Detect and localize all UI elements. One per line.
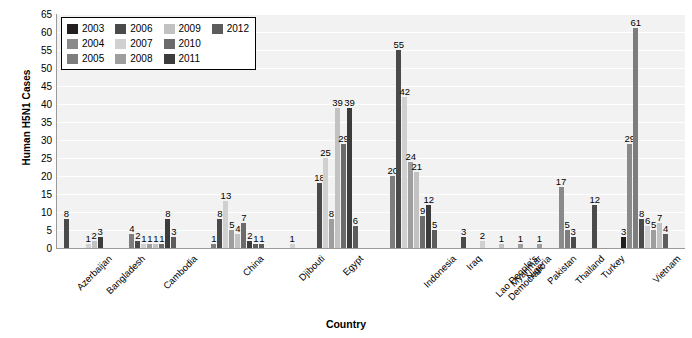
bar[interactable]: 1 <box>253 244 258 248</box>
bar-value-label: 1 <box>86 234 91 244</box>
bar[interactable]: 3 <box>621 237 626 248</box>
bar[interactable]: 20 <box>390 176 395 248</box>
bar[interactable]: 4 <box>235 234 240 248</box>
bar[interactable]: 9 <box>420 216 425 248</box>
legend-label: 2011 <box>179 53 201 64</box>
legend-label: 2012 <box>227 23 249 34</box>
bar[interactable]: 5 <box>565 230 570 248</box>
bar[interactable]: 8 <box>64 219 69 248</box>
legend-item[interactable]: 2009 <box>164 22 201 35</box>
bar[interactable]: 2 <box>135 241 140 248</box>
bar[interactable]: 8 <box>165 219 170 248</box>
bar-group: 1 <box>511 14 530 248</box>
bar[interactable]: 12 <box>592 205 597 248</box>
bar-value-label: 7 <box>241 213 246 223</box>
bar[interactable]: 3 <box>461 237 466 248</box>
x-axis-label: China <box>240 253 265 278</box>
bar[interactable]: 3 <box>98 237 103 248</box>
bar[interactable]: 1 <box>211 244 216 248</box>
y-axis-tick-label: 60 <box>41 27 52 38</box>
legend-item[interactable]: 2010 <box>164 37 201 50</box>
bar[interactable]: 1 <box>499 244 504 248</box>
bar[interactable]: 4 <box>129 234 134 248</box>
bar[interactable]: 1 <box>86 244 91 248</box>
legend-swatch-icon <box>115 39 126 49</box>
bar-value-label: 21 <box>411 162 422 172</box>
bar-group: 3296186574 <box>604 14 685 248</box>
bar-value-label: 1 <box>253 234 258 244</box>
x-axis-title: Country <box>0 318 692 330</box>
bar[interactable]: 8 <box>329 219 334 248</box>
legend-item[interactable]: 2004 <box>67 37 104 50</box>
bar[interactable]: 5 <box>432 230 437 248</box>
bar[interactable]: 2 <box>92 241 97 248</box>
bar-value-label: 3 <box>461 227 466 237</box>
legend-label: 2004 <box>82 38 104 49</box>
legend-item[interactable]: 2007 <box>115 37 152 50</box>
bar-value-label: 1 <box>518 234 523 244</box>
bar-value-label: 1 <box>289 234 294 244</box>
bar[interactable]: 8 <box>217 219 222 248</box>
legend-item[interactable]: 2005 <box>67 52 104 65</box>
bar[interactable]: 7 <box>657 223 662 248</box>
y-axis-tick-label: 30 <box>41 135 52 146</box>
bar[interactable]: 8 <box>639 219 644 248</box>
bar[interactable]: 1 <box>259 244 264 248</box>
bar[interactable]: 5 <box>651 230 656 248</box>
bar[interactable]: 1 <box>153 244 158 248</box>
legend-item[interactable]: 2011 <box>164 52 201 65</box>
bar[interactable]: 1 <box>537 244 542 248</box>
bar-group: 1 <box>492 14 511 248</box>
legend-item[interactable]: 2006 <box>115 22 152 35</box>
bar[interactable]: 18 <box>317 183 322 248</box>
bar-value-label: 8 <box>329 209 334 219</box>
bar[interactable]: 21 <box>414 172 419 248</box>
bar[interactable]: 1 <box>159 244 164 248</box>
bar[interactable]: 2 <box>247 241 252 248</box>
bar[interactable]: 6 <box>645 226 650 248</box>
bar[interactable]: 1 <box>147 244 152 248</box>
bar[interactable]: 1 <box>141 244 146 248</box>
y-axis-tick-label: 50 <box>41 63 52 74</box>
bar[interactable]: 1 <box>290 244 295 248</box>
x-axis-label: Iraq <box>463 253 482 272</box>
bar[interactable]: 4 <box>663 234 668 248</box>
bar[interactable]: 55 <box>396 50 401 248</box>
bar-value-label: 2 <box>480 231 485 241</box>
bar-value-label: 5 <box>651 220 656 230</box>
bar-value-label: 7 <box>657 213 662 223</box>
legend-item[interactable]: 2012 <box>212 22 249 35</box>
bar[interactable]: 39 <box>335 108 340 248</box>
bar[interactable]: 3 <box>571 237 576 248</box>
bar[interactable]: 12 <box>426 205 431 248</box>
bar-value-label: 12 <box>590 195 601 205</box>
bar[interactable]: 42 <box>402 97 407 248</box>
bar[interactable]: 29 <box>627 144 632 248</box>
bar[interactable]: 5 <box>229 230 234 248</box>
bar-value-label: 6 <box>645 216 650 226</box>
bar[interactable]: 61 <box>633 28 638 248</box>
bar-group: 12 <box>585 14 604 248</box>
bar-value-label: 2 <box>92 231 97 241</box>
bar-value-label: 5 <box>229 220 234 230</box>
legend-item[interactable]: 2003 <box>67 22 104 35</box>
bar[interactable]: 3 <box>171 237 176 248</box>
bar[interactable]: 29 <box>341 144 346 248</box>
bar[interactable]: 39 <box>347 108 352 248</box>
bar[interactable]: 1 <box>518 244 523 248</box>
bar[interactable]: 25 <box>323 158 328 248</box>
y-axis-tick-label: 65 <box>41 9 52 20</box>
bar-value-label: 42 <box>399 87 410 97</box>
bar-value-label: 61 <box>630 18 641 28</box>
legend-label: 2005 <box>82 53 104 64</box>
bar[interactable]: 17 <box>559 187 564 248</box>
bar[interactable]: 2 <box>480 241 485 248</box>
bar-value-label: 3 <box>570 227 575 237</box>
bar[interactable]: 6 <box>353 226 358 248</box>
bar[interactable]: 13 <box>223 201 228 248</box>
legend-item[interactable]: 2008 <box>115 52 152 65</box>
bar-value-label: 5 <box>432 220 437 230</box>
legend-swatch-icon <box>212 24 223 34</box>
bar[interactable]: 7 <box>241 223 246 248</box>
bar[interactable]: 24 <box>408 162 413 248</box>
